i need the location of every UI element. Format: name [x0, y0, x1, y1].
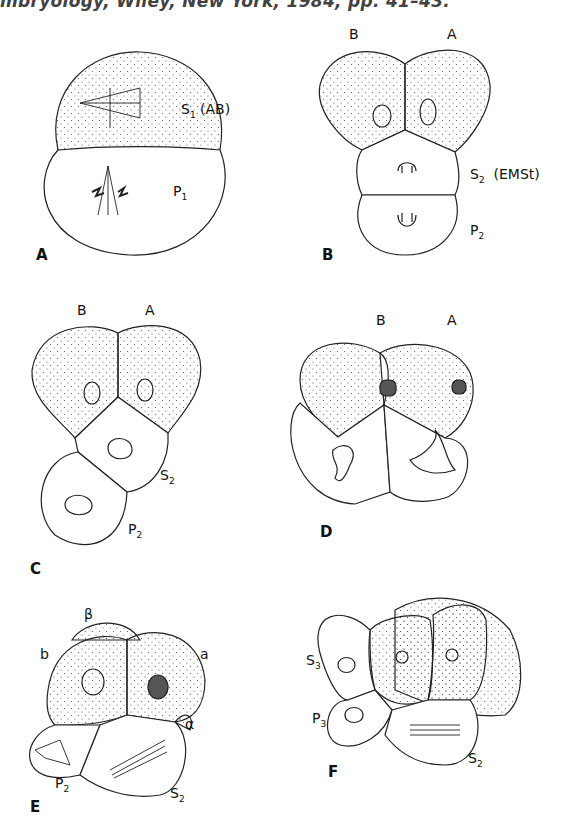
label-s2: S2 — [160, 467, 175, 486]
panel-e-drawing — [30, 623, 205, 796]
panel-label-a: A — [36, 246, 48, 264]
embryo-cleavage-drawings — [0, 0, 567, 821]
label-s2: S2 — [468, 750, 483, 769]
label-beta: β — [84, 606, 93, 622]
panel-label-e: E — [30, 798, 40, 816]
panel-label-f: F — [328, 763, 338, 781]
label-a-top: A — [145, 302, 155, 318]
panel-f-drawing — [318, 598, 521, 765]
label-p3: P3 — [312, 710, 326, 729]
panel-d-drawing — [291, 343, 473, 504]
label-p2: P2 — [128, 521, 142, 540]
label-s2: S2 — [170, 785, 185, 804]
panel-label-c: C — [30, 560, 41, 578]
panel-b-drawing — [319, 50, 490, 255]
label-b-top: B — [77, 302, 87, 318]
label-s2-emst: S2 (EMSt) — [470, 166, 540, 185]
label-p2: P2 — [55, 775, 69, 794]
panel-c-drawing — [32, 326, 201, 545]
label-alpha: α — [185, 716, 194, 732]
label-b-lower: b — [40, 646, 49, 662]
label-a-top: A — [447, 312, 457, 328]
label-a-top: A — [447, 26, 457, 42]
panel-label-d: D — [320, 523, 332, 541]
label-a-lower: a — [200, 646, 209, 662]
label-s1-ab: S1 (AB) — [181, 101, 230, 120]
label-p2: P2 — [470, 222, 484, 241]
label-p1: P1 — [173, 183, 187, 202]
label-s3: S3 — [306, 652, 321, 671]
label-b-top: B — [376, 312, 386, 328]
panel-a-drawing — [44, 52, 225, 255]
panel-label-b: B — [322, 246, 333, 264]
label-b-top: B — [349, 26, 359, 42]
